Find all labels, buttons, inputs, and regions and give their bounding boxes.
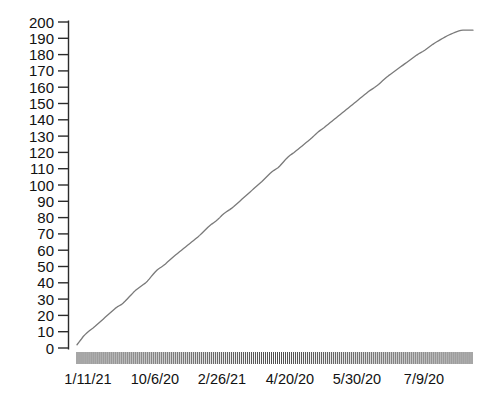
y-tick-label-100: 100 (29, 177, 54, 194)
x-tick-label-5: 7/9/20 (404, 371, 444, 387)
x-axis: 1/11/2110/6/202/26/214/20/205/30/207/9/2… (64, 352, 472, 387)
y-tick-label-50: 50 (37, 258, 54, 275)
y-tick-label-150: 150 (29, 95, 54, 112)
x-tick-label-1: 10/6/20 (131, 371, 179, 387)
y-tick-label-190: 190 (29, 30, 54, 47)
y-tick-label-200: 200 (29, 14, 54, 31)
y-tick-label-80: 80 (37, 209, 54, 226)
y-tick-label-20: 20 (37, 307, 54, 324)
y-tick-label-0: 0 (46, 340, 54, 357)
y-axis-tick-labels: 2001901801701601501401301201101009080706… (29, 14, 54, 357)
series-group (77, 30, 473, 345)
y-tick-label-90: 90 (37, 193, 54, 210)
x-tick-label-2: 2/26/21 (198, 371, 246, 387)
y-tick-label-60: 60 (37, 242, 54, 259)
chart-canvas: 2001901801701601501401301201101009080706… (0, 0, 488, 403)
y-tick-label-120: 120 (29, 144, 54, 161)
y-tick-label-170: 170 (29, 62, 54, 79)
y-tick-label-160: 160 (29, 79, 54, 96)
y-axis: 2001901801701601501401301201101009080706… (29, 14, 69, 357)
x-tick-label-4: 5/30/20 (333, 371, 381, 387)
y-tick-label-180: 180 (29, 46, 54, 63)
y-tick-label-110: 110 (30, 160, 54, 177)
line-chart: 2001901801701601501401301201101009080706… (0, 0, 488, 403)
y-tick-label-30: 30 (37, 291, 54, 308)
x-axis-tick-labels: 1/11/2110/6/202/26/214/20/205/30/207/9/2… (64, 371, 444, 387)
y-tick-label-10: 10 (37, 323, 54, 340)
y-tick-label-140: 140 (29, 111, 54, 128)
x-tick-label-3: 4/20/20 (266, 371, 314, 387)
series-line-cumulative (77, 30, 473, 345)
x-tick-label-0: 1/11/21 (64, 371, 111, 387)
y-axis-ticks (58, 22, 69, 348)
y-tick-label-40: 40 (37, 274, 54, 291)
y-tick-label-130: 130 (29, 128, 54, 145)
y-tick-label-70: 70 (37, 225, 54, 242)
x-axis-minor-ticks (77, 352, 472, 364)
